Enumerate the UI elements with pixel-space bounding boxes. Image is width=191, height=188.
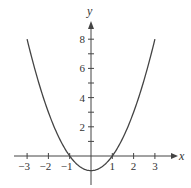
x-axis-label: x — [178, 149, 185, 163]
y-axis-label: y — [86, 4, 93, 18]
y-tick-label: 4 — [80, 92, 86, 104]
x-tick-label: 2 — [131, 160, 137, 172]
x-tick-label: −3 — [18, 160, 30, 172]
y-axis-arrow-icon — [88, 21, 94, 29]
parabola-chart: −3−2−11232468 x y — [0, 0, 191, 188]
x-tick-label: −1 — [61, 160, 73, 172]
y-tick-label: 2 — [80, 121, 86, 133]
x-axis-arrow-icon — [171, 153, 178, 159]
x-tick-label: 1 — [110, 160, 116, 172]
x-tick-label: −2 — [40, 160, 52, 172]
y-tick-label: 8 — [80, 33, 86, 45]
y-tick-label: 6 — [80, 62, 86, 74]
x-tick-label: 3 — [152, 160, 158, 172]
